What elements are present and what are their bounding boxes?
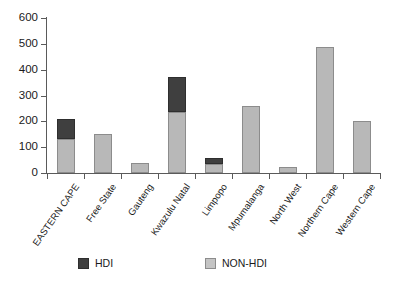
x-axis-label: Gauteng xyxy=(126,182,155,218)
plot-area xyxy=(47,18,380,173)
y-tick-label: 500 xyxy=(0,38,38,50)
bar-group[interactable] xyxy=(353,18,371,173)
y-tick-label: 100 xyxy=(0,141,38,153)
x-axis-label: Western Cape xyxy=(334,182,377,237)
x-tick xyxy=(47,174,48,179)
bar-group[interactable] xyxy=(205,18,223,173)
x-tick xyxy=(380,174,381,179)
bar-segment-non-hdi[interactable] xyxy=(279,167,297,173)
bar-segment-non-hdi[interactable] xyxy=(131,163,149,173)
bar-segment-hdi[interactable] xyxy=(168,77,186,112)
chart-legend: HDINON-HDI xyxy=(0,258,394,276)
bar-segment-non-hdi[interactable] xyxy=(57,139,75,173)
bar-segment-non-hdi[interactable] xyxy=(94,134,112,173)
x-axis-label: Free State xyxy=(84,182,118,224)
x-axis-label: Kwazulu Natal xyxy=(149,182,192,237)
bar-segment-non-hdi[interactable] xyxy=(168,112,186,173)
bar-segment-non-hdi[interactable] xyxy=(353,121,371,173)
x-tick xyxy=(232,174,233,179)
y-tick-label: 600 xyxy=(0,12,38,24)
x-axis-label: North West xyxy=(267,182,302,227)
bar-segment-non-hdi[interactable] xyxy=(205,164,223,173)
x-tick xyxy=(195,174,196,179)
bar-group[interactable] xyxy=(57,18,75,173)
legend-swatch-icon xyxy=(205,258,216,269)
x-tick xyxy=(121,174,122,179)
y-tick-label: 400 xyxy=(0,64,38,76)
legend-item-hdi[interactable]: HDI xyxy=(78,258,113,269)
x-axis-label: Mpumalanga xyxy=(226,182,266,233)
x-axis-label: Limpopo xyxy=(200,182,229,218)
y-tick-label: 200 xyxy=(0,115,38,127)
x-axis-label: EASTERN CAPE xyxy=(30,182,80,248)
legend-label: HDI xyxy=(95,258,113,269)
bar-group[interactable] xyxy=(94,18,112,173)
y-tick-label: 300 xyxy=(0,90,38,102)
x-axis-line xyxy=(46,173,381,174)
y-tick-label: 0 xyxy=(0,167,38,179)
x-tick xyxy=(306,174,307,179)
x-tick xyxy=(158,174,159,179)
legend-label: NON-HDI xyxy=(222,258,267,269)
x-tick xyxy=(269,174,270,179)
bar-group[interactable] xyxy=(168,18,186,173)
legend-swatch-icon xyxy=(78,258,89,269)
legend-item-non[interactable]: NON-HDI xyxy=(205,258,267,269)
bar-segment-non-hdi[interactable] xyxy=(242,106,260,173)
stacked-bar-chart: 0100200300400500600 EASTERN CAPEFree Sta… xyxy=(0,0,394,288)
bar-group[interactable] xyxy=(316,18,334,173)
bar-segment-hdi[interactable] xyxy=(57,119,75,139)
bar-group[interactable] xyxy=(279,18,297,173)
x-tick xyxy=(343,174,344,179)
bar-group[interactable] xyxy=(131,18,149,173)
bar-segment-hdi[interactable] xyxy=(205,158,223,164)
bar-group[interactable] xyxy=(242,18,260,173)
x-tick xyxy=(84,174,85,179)
bar-segment-non-hdi[interactable] xyxy=(316,47,334,173)
